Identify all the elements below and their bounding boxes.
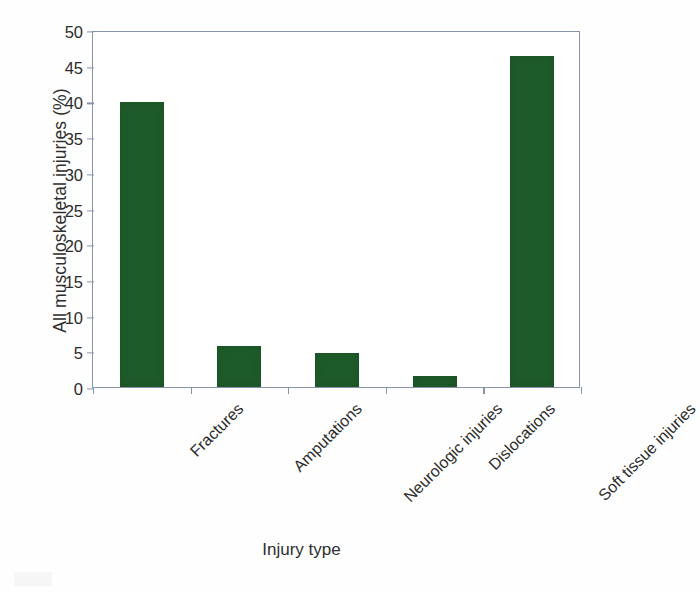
bar-amputations[interactable] (217, 346, 261, 387)
y-tick-label: 0 (45, 380, 83, 399)
bar-soft-tissue-injuries[interactable] (510, 56, 554, 387)
y-tick-label: 50 (45, 23, 83, 42)
bar-slot (93, 32, 191, 387)
y-tick-label: 40 (45, 94, 83, 113)
y-tick-label: 25 (45, 201, 83, 220)
x-tick-mark (191, 387, 192, 394)
x-tick-mark (581, 387, 582, 394)
y-tick-label: 30 (45, 165, 83, 184)
bar-neurologic-injuries[interactable] (315, 353, 359, 387)
scan-artifact (14, 572, 134, 586)
x-tick-mark (483, 387, 484, 394)
bar-fractures[interactable] (120, 102, 164, 387)
bar-slot (191, 32, 289, 387)
x-category-label: Neurologic injuries (401, 400, 507, 506)
x-category-label: Amputations (290, 400, 366, 476)
plot-area: 50454035302520151050 (92, 31, 580, 388)
y-tick-label: 45 (45, 58, 83, 77)
x-tick-mark (288, 387, 289, 394)
x-category-label: Fractures (187, 400, 248, 461)
y-tick-label: 20 (45, 237, 83, 256)
y-tick-label: 35 (45, 130, 83, 149)
x-tick-mark (386, 387, 387, 394)
x-tick-mark (93, 387, 94, 394)
bars-layer (93, 32, 579, 387)
y-tick-label: 5 (45, 344, 83, 363)
bar-slot (288, 32, 386, 387)
y-tick-label: 15 (45, 272, 83, 291)
x-axis-title: Injury type (0, 540, 603, 560)
y-tick-label: 10 (45, 308, 83, 327)
bar-dislocations[interactable] (413, 376, 457, 387)
bar-slot (483, 32, 581, 387)
bar-slot (386, 32, 484, 387)
x-category-label: Soft tissue injuries (595, 400, 700, 505)
